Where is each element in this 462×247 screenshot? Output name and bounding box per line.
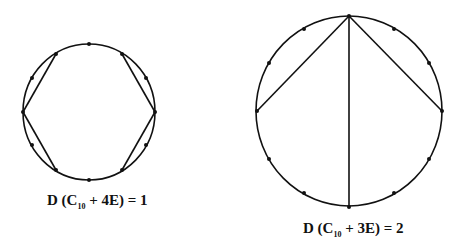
left-figure-label: D (C10 + 4E) = 1 [47, 192, 148, 211]
vertex-dot [267, 157, 271, 161]
vertex-dot [21, 110, 25, 114]
chord-edge [23, 112, 56, 170]
vertex-dot [87, 42, 91, 46]
vertex-dot [427, 61, 431, 65]
right-figure-label: D (C10 + 3E) = 2 [303, 220, 404, 239]
vertex-dot [427, 157, 431, 161]
vertex-dot [302, 27, 306, 31]
vertex-dot [30, 76, 34, 80]
vertex-dot [392, 27, 396, 31]
chord-edge [23, 54, 56, 112]
vertex-dot [392, 191, 396, 195]
vertex-dot [347, 205, 351, 209]
vertex-dot [144, 143, 148, 147]
left-graph [21, 42, 157, 182]
vertex-dot [144, 76, 148, 80]
vertex-dot [255, 109, 259, 113]
vertex-dot [54, 168, 58, 172]
cycle-circle [23, 44, 155, 180]
vertex-dot [302, 191, 306, 195]
vertex-dot [54, 52, 58, 56]
chord-edge [122, 54, 155, 112]
vertex-dot [120, 168, 124, 172]
vertex-dot [120, 52, 124, 56]
right-graph [255, 14, 444, 209]
vertex-dot [153, 110, 157, 114]
vertex-dot [267, 61, 271, 65]
chord-edge [122, 112, 155, 170]
vertex-dot [30, 143, 34, 147]
vertex-dot [347, 14, 351, 18]
vertex-dot [87, 178, 91, 182]
vertex-dot [440, 109, 444, 113]
